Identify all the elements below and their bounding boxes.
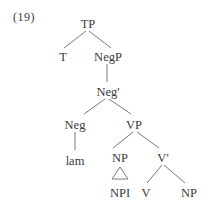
edge-vbar-np [164, 165, 185, 183]
tree-edges [0, 0, 210, 206]
node-v: V [141, 187, 150, 200]
edge-negbar-vp [109, 99, 131, 114]
node-neg: Neg [65, 119, 86, 132]
edge-tp-negp [89, 31, 111, 48]
node-np-subject: NP [112, 152, 128, 165]
edge-vbar-v [147, 165, 162, 183]
node-t: T [59, 51, 67, 64]
node-lam: lam [66, 155, 85, 168]
edge-negbar-neg [84, 99, 105, 114]
node-vp: VP [126, 119, 142, 132]
node-tp: TP [81, 18, 96, 31]
node-np-object: NP [181, 187, 197, 200]
node-v-bar: V' [157, 152, 168, 165]
node-negp: NegP [94, 51, 122, 64]
node-neg-bar: Neg' [96, 86, 119, 99]
edge-tp-t [64, 31, 86, 48]
edge-vp-vbar [137, 132, 159, 148]
np-triangle [112, 167, 128, 179]
edge-vp-np [113, 132, 133, 148]
node-npi: NPI [110, 187, 130, 200]
